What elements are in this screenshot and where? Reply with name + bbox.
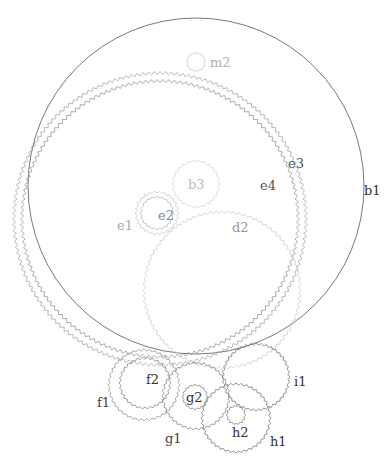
gear-d2 — [143, 211, 302, 370]
gear-label-e3: e3 — [288, 156, 304, 171]
gear-h1 — [201, 383, 271, 453]
gear-m2 — [186, 52, 206, 71]
gear-label-m2: m2 — [210, 55, 231, 70]
gear-label-f2: f2 — [146, 372, 159, 387]
gear-train-diagram: b1e3e4m2b3e1e2d2f1f2g1g2i1h1h2 — [0, 0, 391, 466]
gear-label-h1: h1 — [270, 434, 287, 449]
gear-label-b3: b3 — [188, 177, 205, 192]
gear-f2 — [119, 357, 171, 409]
gear-label-e4: e4 — [260, 178, 276, 193]
gear-label-f1: f1 — [97, 395, 110, 410]
gear-h2 — [226, 405, 246, 424]
gear-label-h2: h2 — [232, 425, 249, 440]
gears-layer — [13, 18, 365, 453]
gear-label-b1: b1 — [364, 183, 381, 198]
gear-label-d2: d2 — [232, 220, 249, 235]
gear-label-e2: e2 — [158, 208, 174, 223]
labels-layer: b1e3e4m2b3e1e2d2f1f2g1g2i1h1h2 — [97, 55, 381, 449]
gear-label-i1: i1 — [294, 374, 306, 389]
gear-label-g2: g2 — [186, 390, 203, 405]
gear-label-e1: e1 — [117, 218, 133, 233]
gear-i1 — [222, 343, 290, 411]
gear-label-g1: g1 — [165, 431, 182, 446]
